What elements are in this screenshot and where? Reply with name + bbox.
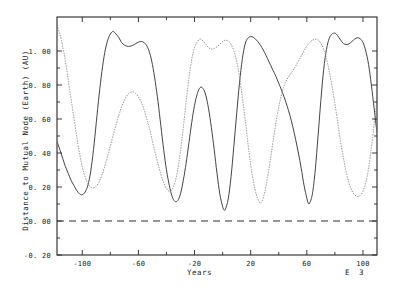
series-layer	[57, 26, 391, 211]
y-axis-title: Distance to Mutual Node (Earth) (AU)	[21, 36, 30, 246]
x-tick-label: -20	[188, 260, 202, 268]
figure: -100-60-2020601001. 000. 800. 600. 400. …	[0, 0, 398, 292]
x-tick-label: -100	[73, 260, 91, 268]
axis-tick-labels: -100-60-2020601001. 000. 800. 600. 400. …	[24, 48, 370, 268]
chart-plot-area: -100-60-2020601001. 000. 800. 600. 400. …	[0, 0, 398, 292]
x-tick-label: 60	[302, 260, 311, 268]
y-tick-label: -0. 20	[24, 252, 51, 260]
x-tick-label: -60	[132, 260, 146, 268]
x-axis-title: Years	[187, 268, 212, 277]
y-tick-label: 0. 20	[28, 184, 51, 192]
y-tick-label: 1. 00	[28, 48, 51, 56]
x-tick-label: 100	[356, 260, 370, 268]
y-tick-label: 0. 40	[28, 150, 51, 158]
series-dotted-curve	[57, 26, 391, 204]
y-tick-label: 0. 80	[28, 82, 51, 90]
x-tick-label: 20	[246, 260, 255, 268]
y-tick-label: 0. 60	[28, 116, 51, 124]
series-solid-curve	[57, 31, 391, 210]
y-tick-label: 0. 00	[28, 218, 51, 226]
x-axis-exponent-label: E 3	[345, 268, 366, 277]
